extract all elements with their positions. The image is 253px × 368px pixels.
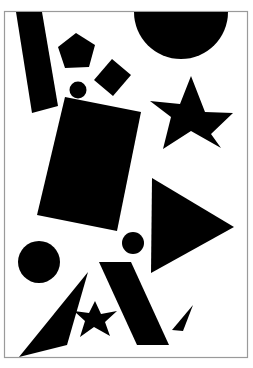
medium-circle — [122, 232, 144, 254]
abstract-shapes-artwork — [0, 0, 253, 368]
small-circle — [70, 82, 87, 99]
image-canvas — [0, 0, 253, 368]
large-circle — [18, 241, 60, 283]
